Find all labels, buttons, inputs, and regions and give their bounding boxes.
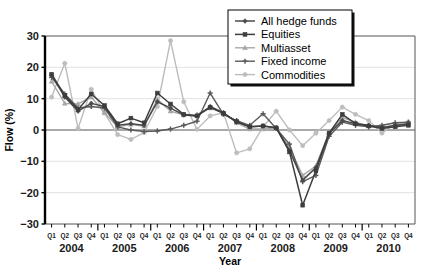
data-point-circle: [168, 39, 172, 43]
data-point-circle: [380, 131, 384, 135]
y-axis-title: Flow (%): [3, 108, 15, 151]
x-tick-label-quarter: Q1: [47, 232, 56, 240]
data-point-square: [406, 123, 410, 127]
x-tick-label-quarter: Q1: [312, 232, 321, 240]
x-tick-label-quarter: Q1: [100, 232, 109, 240]
x-tick-label-quarter: Q2: [61, 232, 70, 240]
legend: All hedge fundsEquitiesMultiassetFixed i…: [228, 10, 355, 87]
x-tick-label-quarter: Q2: [272, 232, 281, 240]
x-tick-label-quarter: Q3: [391, 232, 400, 240]
data-point-circle: [63, 61, 67, 65]
data-point-square: [63, 94, 67, 98]
data-point-square: [314, 169, 318, 173]
data-point-circle: [287, 128, 291, 132]
data-point-square: [129, 116, 133, 120]
x-tick-label-year: 2009: [323, 242, 347, 254]
data-point-circle: [301, 144, 305, 148]
x-tick-label-quarter: Q4: [193, 232, 202, 240]
legend-label: Equities: [261, 28, 301, 40]
data-point-square: [301, 203, 305, 207]
x-tick-label-year: 2007: [218, 242, 242, 254]
y-tick-label: 10: [27, 93, 39, 105]
y-tick-label: 0: [33, 124, 39, 136]
x-tick-label-quarter: Q2: [166, 232, 175, 240]
data-point-circle: [116, 133, 120, 137]
data-point-circle: [208, 114, 212, 118]
x-tick-label-year: 2004: [59, 242, 84, 254]
y-tick-label: −30: [20, 218, 39, 230]
x-tick-label-quarter: Q4: [351, 232, 360, 240]
data-point-square: [274, 126, 278, 130]
data-point-square: [116, 122, 120, 126]
data-point-square: [50, 72, 54, 76]
data-point-square: [243, 33, 247, 37]
y-tick-label: 20: [27, 61, 39, 73]
data-point-circle: [314, 131, 318, 135]
legend-label: Multiasset: [261, 42, 311, 54]
data-point-square: [89, 92, 93, 96]
legend-label: All hedge funds: [261, 15, 337, 27]
data-point-square: [327, 131, 331, 135]
x-tick-label-quarter: Q4: [404, 232, 413, 240]
data-point-circle: [353, 112, 357, 116]
data-point-circle: [89, 87, 93, 91]
x-tick-label-year: 2006: [165, 242, 189, 254]
data-point-square: [393, 125, 397, 129]
x-tick-label-quarter: Q1: [206, 232, 215, 240]
data-point-square: [142, 121, 146, 125]
data-point-square: [208, 106, 212, 110]
data-point-circle: [243, 72, 247, 76]
x-tick-label-quarter: Q3: [232, 232, 241, 240]
data-point-square: [195, 114, 199, 118]
data-point-circle: [49, 95, 53, 99]
x-tick-label-quarter: Q2: [113, 232, 122, 240]
x-tick-label-quarter: Q3: [179, 232, 188, 240]
data-point-square: [169, 102, 173, 106]
x-tick-label-quarter: Q3: [285, 232, 294, 240]
x-tick-label-quarter: Q4: [298, 232, 307, 240]
x-tick-label-year: 2008: [271, 242, 295, 254]
y-tick-label: 30: [27, 30, 39, 42]
x-axis-year-groups: 2004200520062007200820092010: [59, 224, 401, 254]
y-tick-label: −10: [20, 155, 39, 167]
data-point-circle: [182, 100, 186, 104]
x-tick-label-quarter: Q3: [127, 232, 136, 240]
x-tick-label-quarter: Q2: [219, 232, 228, 240]
data-point-square: [288, 150, 292, 154]
x-tick-label-quarter: Q1: [153, 232, 162, 240]
data-point-square: [182, 112, 186, 116]
data-point-square: [221, 111, 225, 115]
x-tick-label-quarter: Q4: [140, 232, 149, 240]
x-tick-label-quarter: Q2: [378, 232, 387, 240]
flow-percent-line-chart: 3020100−10−20−30Flow (%)Q1Q2Q3Q4Q1Q2Q3Q4…: [0, 0, 428, 272]
chart-canvas: 3020100−10−20−30Flow (%)Q1Q2Q3Q4Q1Q2Q3Q4…: [0, 0, 428, 272]
x-tick-label-quarter: Q1: [364, 232, 373, 240]
data-point-square: [76, 108, 80, 112]
data-point-circle: [274, 109, 278, 113]
x-tick-label-quarter: Q4: [87, 232, 96, 240]
data-point-circle: [129, 137, 133, 141]
data-point-square: [235, 120, 239, 124]
data-point-circle: [234, 151, 238, 155]
data-point-square: [103, 104, 107, 108]
data-point-circle: [195, 127, 199, 131]
data-point-circle: [340, 105, 344, 109]
x-tick-label-year: 2005: [112, 242, 136, 254]
data-point-circle: [367, 118, 371, 122]
data-point-square: [340, 112, 344, 116]
y-tick-label: −20: [20, 187, 39, 199]
x-tick-label-quarter: Q4: [246, 232, 255, 240]
legend-label: Commodities: [261, 69, 326, 81]
x-axis-title: Year: [219, 255, 241, 267]
y-axis-ticks: 3020100−10−20−30: [20, 30, 45, 230]
x-tick-label-quarter: Q2: [325, 232, 334, 240]
data-point-square: [248, 125, 252, 129]
x-tick-label-quarter: Q3: [74, 232, 83, 240]
legend-label: Fixed income: [261, 55, 326, 67]
x-axis-ticks: Q1Q2Q3Q4Q1Q2Q3Q4Q1Q2Q3Q4Q1Q2Q3Q4Q1Q2Q3Q4…: [47, 224, 413, 240]
data-point-square: [354, 122, 358, 126]
data-point-square: [261, 124, 265, 128]
data-point-square: [380, 127, 384, 131]
data-point-square: [367, 124, 371, 128]
data-point-square: [155, 91, 159, 95]
